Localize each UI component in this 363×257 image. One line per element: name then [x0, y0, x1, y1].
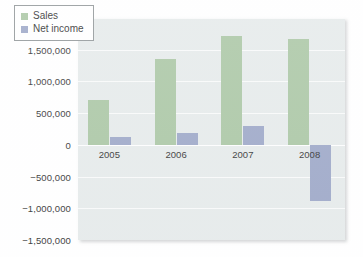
gridline — [78, 177, 345, 178]
y-axis-tick-label: −1,500,000 — [1, 235, 71, 246]
legend-item-net-income: Net income — [21, 23, 84, 36]
y-axis-tick-label: 0 — [1, 139, 71, 150]
legend-swatch-net-income-icon — [21, 26, 28, 33]
y-axis-tick-label: 500,000 — [1, 108, 71, 119]
bar-net-income-2007 — [243, 126, 264, 144]
x-axis-tick-label-2006: 2006 — [166, 149, 187, 160]
bar-chart-figure: 2,000,0001,500,0001,000,000500,0000−500,… — [0, 0, 363, 257]
legend-label: Net income — [33, 23, 84, 36]
y-axis-tick-label: 1,500,000 — [1, 44, 71, 55]
bar-sales-2006 — [155, 59, 176, 145]
chart-legend: SalesNet income — [14, 5, 94, 41]
legend-item-sales: Sales — [21, 10, 84, 23]
bar-sales-2008 — [288, 39, 309, 145]
gridline — [78, 208, 345, 209]
bar-net-income-2005 — [110, 137, 131, 145]
plot-inner — [78, 18, 345, 240]
x-axis-tick-label-2005: 2005 — [99, 149, 120, 160]
bar-net-income-2006 — [177, 133, 198, 145]
y-axis-tick-label: −500,000 — [1, 171, 71, 182]
y-axis-tick-label: 1,000,000 — [1, 76, 71, 87]
x-axis-tick-label-2008: 2008 — [299, 149, 320, 160]
x-axis-tick-label-2007: 2007 — [232, 149, 253, 160]
gridline — [78, 18, 345, 19]
zero-line — [78, 145, 345, 146]
bar-sales-2007 — [221, 36, 242, 145]
plot-area — [78, 18, 345, 240]
bar-sales-2005 — [88, 100, 109, 144]
y-axis-tick-label: −1,000,000 — [1, 203, 71, 214]
legend-label: Sales — [33, 10, 58, 23]
legend-swatch-sales-icon — [21, 13, 28, 20]
